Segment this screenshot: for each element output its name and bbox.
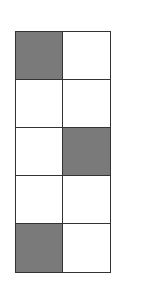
empty-cell [16,80,63,128]
shaded-cell [63,128,110,176]
shaded-cell [16,224,63,272]
shaded-cell [16,32,63,80]
empty-cell [63,80,110,128]
empty-cell [16,128,63,176]
empty-cell [16,176,63,224]
empty-cell [63,176,110,224]
empty-cell [63,32,110,80]
empty-cell [63,224,110,272]
shaded-grid-diagram [15,31,111,273]
